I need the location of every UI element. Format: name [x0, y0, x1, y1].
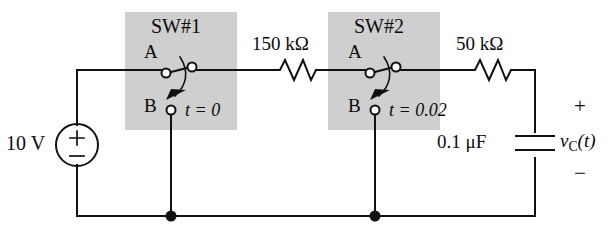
switch-2-terminal-b-label: B	[348, 96, 361, 115]
switch-2-contact-a[interactable]	[366, 69, 375, 78]
switch-1-terminal-b-label: B	[144, 96, 157, 115]
capacitor-voltage-label: vC(t)	[560, 131, 596, 154]
switch-2-time-label: t = 0.02	[389, 101, 447, 119]
circuit-diagram: 10 V SW#1 A B t = 0 SW#2 A B t = 0.02 15…	[0, 0, 609, 245]
capacitor-voltage-argument: (t)	[578, 130, 596, 151]
capacitor-plus-sign: +	[574, 96, 586, 117]
switch-2-contact-common[interactable]	[392, 63, 401, 72]
voltage-source-label: 10 V	[6, 133, 45, 153]
switch-1-contact-common[interactable]	[188, 63, 197, 72]
resistor-50k-label: 50 kΩ	[456, 34, 503, 53]
capacitor-voltage-subscript: C	[568, 139, 577, 154]
switch-2-terminal-a-label: A	[348, 42, 362, 61]
capacitor-label: 0.1 μF	[437, 132, 486, 151]
resistor-50k-zigzag	[470, 60, 511, 80]
resistor-150k-zigzag	[275, 60, 316, 80]
switch-2-title: SW#2	[354, 16, 404, 36]
resistor-150k-label: 150 kΩ	[252, 34, 309, 53]
node-bottom-left	[166, 211, 177, 222]
switch-2-contact-b[interactable]	[371, 106, 380, 115]
switch-1-time-label: t = 0	[185, 101, 220, 119]
switch-1-contact-b[interactable]	[167, 106, 176, 115]
switch-1-title: SW#1	[151, 16, 201, 36]
switch-1-terminal-a-label: A	[144, 42, 158, 61]
capacitor-minus-sign: −	[574, 163, 586, 184]
voltage-source-plus-mark	[70, 131, 84, 145]
switch-1-contact-a[interactable]	[162, 69, 171, 78]
node-bottom-right	[370, 211, 381, 222]
